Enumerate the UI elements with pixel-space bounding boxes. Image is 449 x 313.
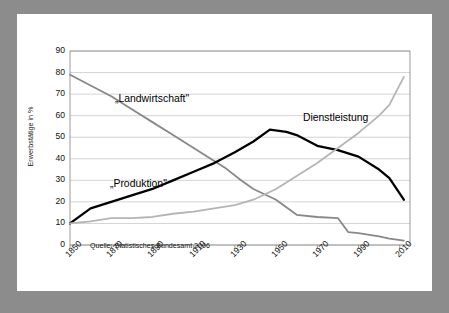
- source-note: Quelle: Statistisches Bundesamt 2006: [90, 242, 210, 250]
- chart-page: Erwerbstätige in % 0102030405060708090 1…: [17, 14, 432, 291]
- y-tick-label: 0: [39, 239, 65, 249]
- dienstleistung-label: Dienstleistung: [303, 112, 368, 123]
- y-tick-label: 40: [39, 153, 65, 163]
- y-tick-label: 10: [39, 217, 65, 227]
- y-tick-label: 60: [39, 110, 65, 120]
- landwirtschaft-label: „Landwirtschaft": [115, 93, 189, 104]
- y-tick-label: 90: [39, 45, 65, 55]
- y-tick-label: 30: [39, 174, 65, 184]
- y-tick-label: 80: [39, 67, 65, 77]
- y-tick-label: 50: [39, 131, 65, 141]
- y-tick-label: 20: [39, 196, 65, 206]
- produktion-label: „Produktion": [110, 178, 167, 189]
- y-tick-label: 70: [39, 88, 65, 98]
